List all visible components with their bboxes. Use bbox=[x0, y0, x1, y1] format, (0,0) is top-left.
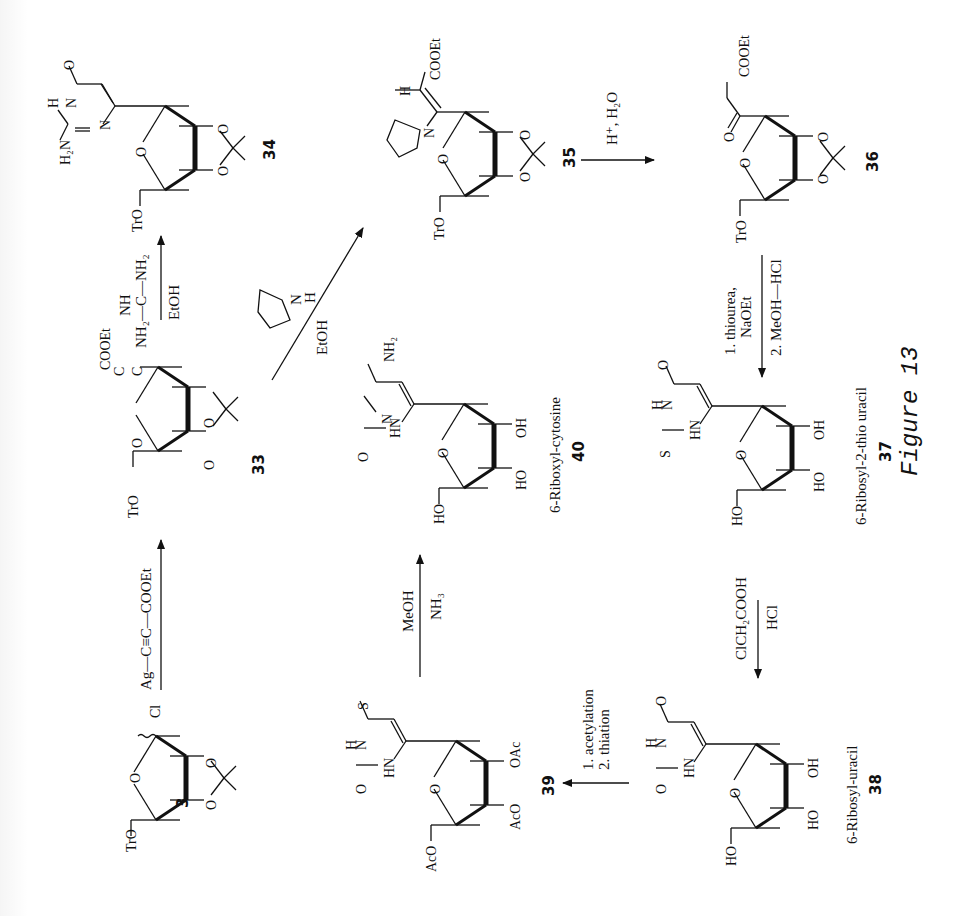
atom-38-ring-o: O bbox=[728, 788, 744, 798]
atom-37-hn: HN bbox=[688, 420, 704, 440]
compound-name-38: 6-Ribosyl-uracil bbox=[844, 746, 861, 844]
atom-35-ring-o: O bbox=[436, 154, 452, 164]
atom-40-ring-o: O bbox=[436, 448, 452, 458]
atom-34-nh-h: H bbox=[46, 98, 62, 108]
atom-38-ho3: HO bbox=[806, 810, 822, 830]
atom-38-hn: HN bbox=[682, 758, 698, 778]
compound-name-40: 6-Riboxyl-cytosine bbox=[547, 397, 564, 513]
atom-39-carbonyl-o: O bbox=[354, 784, 370, 794]
atom-33-cooet: COOEt bbox=[98, 328, 114, 370]
pyrrolidine-ring bbox=[258, 290, 290, 328]
reagent-3-to-33: Ag—C≡C—COOEt bbox=[138, 568, 155, 690]
reagent-38-to-39-step1: 1. acetylation bbox=[580, 689, 597, 770]
atom-39-aco5: AcO bbox=[424, 846, 440, 872]
compound-38-skeleton bbox=[656, 704, 804, 844]
reagent-36-to-37-step1: 1. thiourea, bbox=[722, 287, 739, 355]
reagent-39-to-40-ammonia: NH₃ bbox=[428, 593, 445, 620]
arrow-33-to-35 bbox=[272, 228, 363, 380]
figure-caption: Figure 13 bbox=[897, 346, 924, 476]
compound-40-skeleton bbox=[364, 364, 512, 504]
compound-36-skeleton bbox=[727, 82, 845, 216]
atom-35-cooet: COOEt bbox=[428, 38, 444, 80]
atom-39-n3: N bbox=[354, 740, 370, 750]
atom-40-nh2: NH₂ bbox=[382, 337, 398, 362]
compound-label-37: 37 bbox=[877, 441, 895, 462]
compound-37-skeleton bbox=[662, 366, 810, 506]
atom-38-carbonyl-o4: O bbox=[654, 696, 670, 706]
atom-34-tro: TrO bbox=[130, 209, 146, 232]
compound-label-38: 38 bbox=[867, 774, 885, 795]
atom-35-o2: O bbox=[518, 172, 534, 182]
atom-34-h2n: H₂N bbox=[58, 140, 74, 165]
atom-37-oh2: OH bbox=[812, 420, 828, 440]
compound-label-34: 34 bbox=[261, 139, 279, 160]
reagent-37-to-38-hcl: HCl bbox=[764, 605, 781, 630]
atom-36-ring-o: O bbox=[738, 158, 754, 168]
reagent-33-to-35-solvent: EtOH bbox=[314, 320, 331, 355]
atom-38-n3: N bbox=[654, 738, 670, 748]
reagent-36-to-37-step2: 2. MeOH—HCl bbox=[768, 259, 785, 356]
atom-34-o1: O bbox=[216, 124, 232, 134]
compound-label-39: 39 bbox=[540, 775, 558, 796]
reagent-33-to-34-solvent: EtOH bbox=[166, 285, 183, 320]
atom-36-tro: TrO bbox=[734, 220, 750, 243]
atom-34-carbonyl-o: O bbox=[62, 60, 78, 70]
atom-38-carbonyl-o2: O bbox=[654, 784, 670, 794]
compound-3-skeleton bbox=[131, 735, 236, 837]
atom-33-ring-o: O bbox=[130, 438, 146, 448]
atom-39-ring-o: O bbox=[428, 784, 444, 794]
compound-label-35: 35 bbox=[561, 147, 579, 168]
atom-38-ho5: HO bbox=[724, 846, 740, 866]
atom-36-cooet: COOEt bbox=[737, 35, 753, 77]
compound-label-3: 3 bbox=[174, 798, 192, 808]
atom-37-s: S bbox=[658, 450, 674, 458]
atom-34-o2: O bbox=[216, 166, 232, 176]
atom-33-c1: C bbox=[112, 367, 128, 376]
atom-3-o1: O bbox=[204, 758, 220, 768]
atom-39-thione-s: S bbox=[356, 702, 372, 710]
atom-37-ho5: HO bbox=[730, 506, 746, 526]
compound-label-33: 33 bbox=[250, 454, 268, 475]
atom-35-tro: TrO bbox=[432, 217, 448, 240]
atom-39-oac2: OAc bbox=[508, 742, 524, 768]
atom-39-hn: HN bbox=[382, 758, 398, 778]
atom-34-ring-o: O bbox=[134, 147, 150, 157]
reagent-pyrrolidine-h: H bbox=[302, 292, 319, 303]
atom-36-o2: O bbox=[816, 174, 832, 184]
reagent-37-to-38-acid: ClCH₂COOH bbox=[733, 577, 750, 660]
atom-34-n3: N bbox=[64, 98, 80, 108]
atom-40-oh2: OH bbox=[514, 418, 530, 438]
compound-name-37: 6-Ribosyl-2-thio uracil bbox=[853, 387, 870, 525]
atom-33-c2: C bbox=[130, 367, 146, 376]
atom-35-vinyl-h: H bbox=[398, 86, 414, 96]
atom-35-n: N bbox=[422, 128, 438, 138]
compound-label-40: 40 bbox=[570, 441, 588, 462]
atom-36-o1: O bbox=[816, 132, 832, 142]
reagent-35-to-36: H⁺, H₂O bbox=[603, 92, 621, 145]
atom-38-oh2: OH bbox=[806, 758, 822, 778]
reagent-38-to-39-step2: 2. thiation bbox=[596, 709, 613, 770]
atom-40-carbonyl-o: O bbox=[356, 452, 372, 462]
atom-3-o2: O bbox=[204, 800, 220, 810]
compound-39-skeleton bbox=[356, 701, 504, 841]
atom-37-ring-o: O bbox=[734, 450, 750, 460]
reagent-39-to-40-solvent: MeOH bbox=[400, 590, 417, 632]
compound-label-36: 36 bbox=[864, 151, 882, 172]
atom-36-keto-o: O bbox=[722, 132, 738, 142]
atom-37-ho3: HO bbox=[812, 472, 828, 492]
figure-page: 3 33 34 35 36 37 38 39 40 6-Ribosyl-2-th… bbox=[0, 0, 957, 916]
atom-3-cl: Cl bbox=[148, 705, 164, 718]
atom-39-aco3: AcO bbox=[508, 804, 524, 830]
reagent-guanidine-nh: NH bbox=[117, 294, 134, 316]
atom-35-o1: O bbox=[518, 130, 534, 140]
compound-34-skeleton bbox=[58, 66, 245, 206]
atom-40-ho5: HO bbox=[432, 504, 448, 524]
compound-33-skeleton bbox=[133, 367, 238, 467]
atom-33-tro: TrO bbox=[126, 495, 142, 518]
atom-34-n1: N bbox=[98, 120, 114, 130]
atom-33-o1: O bbox=[202, 418, 218, 428]
atom-37-n3: N bbox=[660, 400, 676, 410]
atom-40-ho3: HO bbox=[514, 470, 530, 490]
atom-40-hn: HN bbox=[388, 418, 404, 438]
reagent-guanidine: NH₂—C—NH₂ bbox=[133, 254, 150, 348]
